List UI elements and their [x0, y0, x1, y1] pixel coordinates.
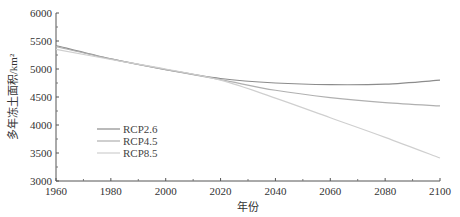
- x-tick-label: 2080: [374, 185, 397, 197]
- legend: RCP2.6RCP4.5RCP8.5: [97, 123, 158, 159]
- y-tick-label: 6000: [30, 7, 53, 19]
- x-tick-label: 2000: [155, 185, 178, 197]
- x-tick-label: 2100: [429, 185, 452, 197]
- x-tick-label: 2020: [210, 185, 233, 197]
- series-line-rcp85: [56, 49, 440, 158]
- y-axis-title: 多年冻土面积/km²: [6, 53, 19, 140]
- y-tick-label: 5500: [30, 35, 53, 47]
- x-tick-label: 1980: [100, 185, 123, 197]
- x-tick-label: 2040: [264, 185, 287, 197]
- legend-label: RCP4.5: [123, 135, 158, 147]
- series-line-rcp45: [56, 47, 440, 106]
- axes: 3000350040004500500055006000196019802000…: [30, 7, 452, 197]
- y-tick-label: 5000: [30, 63, 53, 75]
- x-axis-title: 年份: [237, 200, 259, 213]
- y-tick-label: 4000: [30, 119, 53, 131]
- legend-label: RCP8.5: [123, 147, 158, 159]
- series-line-rcp26: [56, 45, 440, 84]
- x-tick-label: 1960: [45, 185, 68, 197]
- legend-label: RCP2.6: [123, 123, 158, 135]
- x-tick-label: 2060: [319, 185, 342, 197]
- y-tick-label: 3500: [30, 147, 53, 159]
- y-tick-label: 4500: [30, 91, 53, 103]
- line-chart: 3000350040004500500055006000196019802000…: [0, 0, 460, 217]
